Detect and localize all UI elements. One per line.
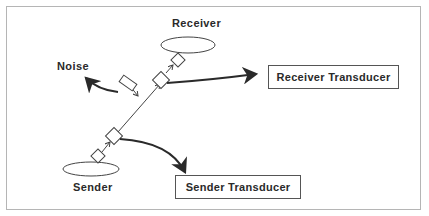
sender-link-arrow [102,142,110,152]
receiver-link-arrow [166,65,173,73]
receiver-transducer-arrow [167,74,256,83]
sender-label: Sender [73,181,113,193]
noise-node [119,75,137,91]
sender-transducer-arrow [120,139,185,172]
receiver-label: Receiver [172,17,221,29]
receiver-node-small [171,53,185,67]
receiver-transducer-box: Receiver Transducer [268,65,399,89]
channel-line [118,84,160,132]
receiver-node-large [153,72,170,89]
receiver-ellipse [161,37,215,53]
sender-ellipse [63,162,119,176]
noise-label: Noise [57,60,89,72]
sender-transducer-box: Sender Transducer [175,175,301,199]
noise-arrow [86,78,118,92]
